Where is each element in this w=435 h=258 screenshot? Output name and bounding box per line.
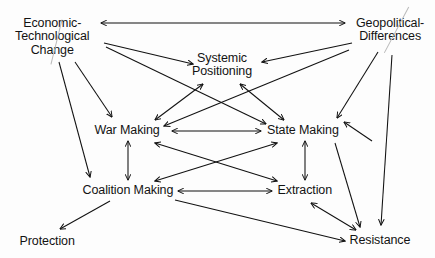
- edge-coalition-making-to-protection: [60, 201, 110, 229]
- edge-geopolitical-differences-to-resistance: [381, 55, 392, 225]
- state-formation-diagram: Economic- Technological ChangeGeopolitic…: [0, 0, 435, 258]
- edge-extraction-to-resistance: [311, 203, 356, 230]
- edge-economic-technological-change-to-coalition-making: [59, 62, 90, 177]
- edge-state-making-to-resistance: [335, 143, 360, 227]
- edge-geopolitical-differences-to-systemic-positioning: [262, 43, 352, 62]
- node-extraction: Extraction: [278, 184, 333, 198]
- edge-systemic-positioning-to-war-making: [155, 84, 203, 120]
- node-economic-technological-change: Economic- Technological Change: [15, 17, 89, 58]
- node-war-making: War Making: [95, 124, 160, 138]
- edge-coalition-making-to-resistance: [175, 200, 345, 241]
- edge-resistance-to-state-making: [344, 122, 372, 141]
- node-protection: Protection: [20, 235, 75, 249]
- node-state-making: State Making: [267, 124, 339, 138]
- edge-economic-technological-change-to-war-making: [75, 62, 112, 117]
- edge-geopolitical-differences-to-state-making: [337, 52, 378, 118]
- edge-economic-technological-change-to-systemic-positioning: [104, 43, 193, 64]
- node-resistance: Resistance: [350, 234, 411, 248]
- node-systemic-positioning: Systemic Positioning: [192, 52, 252, 79]
- node-coalition-making: Coalition Making: [83, 184, 174, 198]
